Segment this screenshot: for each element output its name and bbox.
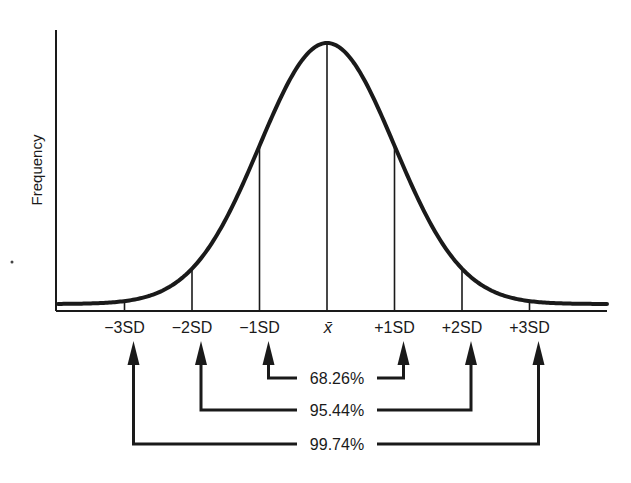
tick-label: +2SD — [442, 319, 482, 336]
bell-curve — [58, 43, 607, 304]
tick-label: −1SD — [239, 319, 279, 336]
arrow-line-left — [134, 363, 298, 444]
arrow-line-right — [377, 363, 404, 378]
arrowhead-up-icon — [533, 341, 545, 365]
arrowhead-up-icon — [263, 341, 275, 365]
arrowhead-up-icon — [128, 341, 140, 365]
tick-label: +3SD — [509, 319, 549, 336]
arrow-line-left — [269, 363, 298, 378]
axes — [56, 30, 607, 311]
normal-distribution-diagram: Frequency −3SD−2SD−1SDx̄+1SD+2SD+3SD 68.… — [0, 0, 631, 483]
interval-6826: 68.26% — [263, 341, 410, 387]
arrowhead-up-icon — [465, 341, 477, 365]
percent-label: 95.44% — [310, 402, 364, 419]
scan-speck — [11, 261, 14, 264]
arrow-line-right — [377, 363, 471, 410]
interval-arrows: 68.26%95.44%99.74% — [128, 341, 545, 453]
sd-lines — [125, 43, 530, 311]
percent-label: 68.26% — [310, 370, 364, 387]
arrowhead-up-icon — [398, 341, 410, 365]
percent-label: 99.74% — [310, 436, 364, 453]
arrow-line-right — [377, 363, 539, 444]
tick-labels: −3SD−2SD−1SDx̄+1SD+2SD+3SD — [104, 318, 549, 337]
tick-label: +1SD — [374, 319, 414, 336]
mean-label: x̄ — [323, 318, 333, 337]
tick-label: −2SD — [172, 319, 212, 336]
arrowhead-up-icon — [195, 341, 207, 365]
arrow-line-left — [201, 363, 297, 410]
tick-label: −3SD — [104, 319, 144, 336]
interval-9974: 99.74% — [128, 341, 545, 453]
y-axis-label: Frequency — [28, 134, 45, 205]
